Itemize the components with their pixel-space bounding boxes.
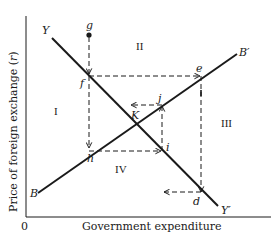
label-k: K xyxy=(131,110,139,121)
point-g xyxy=(86,32,91,37)
region-i: I xyxy=(54,106,58,117)
label-b: B xyxy=(30,188,38,199)
label-g: g xyxy=(86,20,93,31)
label-b-prime: B′ xyxy=(239,47,250,58)
label-e: e xyxy=(196,63,203,74)
y-axis-title-var: r xyxy=(7,56,20,61)
y-axis-title-main: Price of foreign exchange ( xyxy=(7,61,20,212)
label-y: Y xyxy=(42,25,49,36)
y-axis-title: Price of foreign exchange (r) xyxy=(8,51,19,212)
line-bb xyxy=(38,54,237,193)
x-axis-title: Government expenditure xyxy=(82,221,222,232)
origin-label: 0 xyxy=(21,221,28,232)
label-i: i xyxy=(166,142,170,153)
region-iv: IV xyxy=(115,164,127,175)
label-h: h xyxy=(87,153,94,164)
label-f: f xyxy=(80,78,84,89)
line-yy xyxy=(52,38,218,206)
region-ii: II xyxy=(136,41,143,52)
region-iii: III xyxy=(221,118,232,129)
y-axis-title-close: ) xyxy=(7,51,20,55)
label-y-prime: Y′ xyxy=(221,205,231,216)
label-d: d xyxy=(193,196,200,207)
label-j: j xyxy=(158,93,161,104)
